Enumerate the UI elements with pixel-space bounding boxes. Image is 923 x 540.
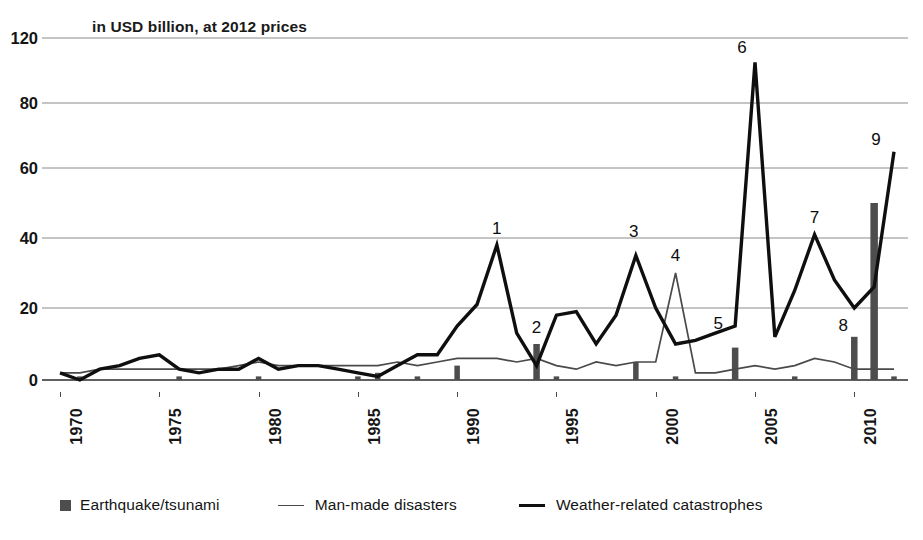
x-axis-tick-mark — [358, 392, 359, 397]
line-series-weather — [60, 62, 894, 380]
x-axis-tick-label: 2010 — [862, 408, 880, 445]
legend-item-label: Earthquake/tsunami — [80, 496, 220, 514]
y-axis-tick-label: 40 — [0, 230, 38, 247]
x-axis-tick-mark — [854, 392, 855, 397]
bar — [633, 362, 639, 380]
legend-item-man-made[interactable]: Man-made disasters — [278, 496, 457, 514]
x-axis-tick-label: 1975 — [167, 408, 185, 445]
x-axis-tick-mark — [457, 392, 458, 397]
data-point-label: 6 — [737, 39, 746, 56]
bar — [891, 376, 897, 380]
bar-series-earthquake — [77, 203, 897, 380]
y-axis-tick-label: 60 — [0, 160, 38, 177]
x-axis-tick-label: 1970 — [68, 408, 86, 445]
x-axis-tick-mark — [159, 392, 160, 397]
chart-canvas — [42, 30, 908, 390]
x-axis-tick-label: 1990 — [465, 408, 483, 445]
data-point-label: 5 — [713, 315, 722, 332]
data-point-label: 3 — [629, 223, 638, 240]
x-axis-tick-label: 1985 — [366, 408, 384, 445]
data-point-label: 4 — [671, 247, 680, 264]
legend-item-label: Weather-related catastrophes — [556, 496, 763, 514]
bar — [176, 376, 182, 380]
plot-area: 123456789 — [42, 30, 908, 390]
x-axis-tick-mark — [259, 392, 260, 397]
y-axis-tick-label: 80 — [0, 95, 38, 112]
legend-item-earthquake[interactable]: Earthquake/tsunami — [60, 496, 220, 514]
data-point-label: 7 — [810, 209, 819, 226]
bar — [355, 376, 361, 380]
thin-line-swatch-icon — [278, 505, 304, 506]
y-axis-tick-label: 0 — [0, 372, 38, 389]
bar — [673, 376, 679, 380]
x-axis-tick-label: 2005 — [763, 408, 781, 445]
bar — [256, 376, 261, 380]
thick-line-swatch-icon — [519, 504, 545, 507]
x-axis-tick-mark — [60, 392, 61, 397]
data-point-label: 9 — [871, 131, 880, 148]
x-axis-tick-label: 2000 — [664, 408, 682, 445]
x-axis: 197019751980198519901995200020052010 — [42, 392, 908, 482]
y-axis: 020406080120 — [0, 30, 38, 390]
y-axis-tick-label: 20 — [0, 300, 38, 317]
bar — [851, 337, 858, 380]
bar — [454, 366, 460, 380]
data-point-label: 2 — [532, 319, 541, 336]
y-axis-tick-label: 120 — [0, 30, 38, 47]
bar — [732, 348, 739, 380]
chart-legend: Earthquake/tsunami Man-made disasters We… — [60, 492, 763, 518]
bar — [792, 376, 798, 380]
bar — [554, 376, 560, 380]
x-axis-tick-mark — [556, 392, 557, 397]
x-axis-tick-label: 1995 — [564, 408, 582, 445]
chart-figure: in USD billion, at 2012 prices 020406080… — [0, 0, 923, 540]
x-axis-tick-mark — [656, 392, 657, 397]
data-point-label: 8 — [839, 317, 848, 334]
line-series-man-made — [60, 273, 894, 373]
legend-item-label: Man-made disasters — [315, 496, 457, 514]
bar-swatch-icon — [60, 500, 71, 511]
legend-item-weather[interactable]: Weather-related catastrophes — [519, 496, 763, 514]
x-axis-tick-label: 1980 — [267, 408, 285, 445]
data-point-label: 1 — [492, 220, 501, 237]
bar — [415, 376, 421, 380]
x-axis-tick-mark — [755, 392, 756, 397]
